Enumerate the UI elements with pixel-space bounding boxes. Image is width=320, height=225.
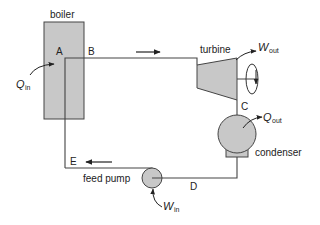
q-in-subscript: in	[25, 84, 31, 91]
condenser-label: condenser	[255, 147, 302, 158]
state-point-c: C	[241, 101, 248, 112]
state-point-e: E	[70, 156, 77, 167]
turbine: turbine W out	[197, 41, 279, 100]
state-point-a: A	[56, 46, 63, 57]
q-out-subscript: out	[272, 117, 282, 124]
w-out-subscript: out	[269, 47, 279, 54]
pipe-condenser-to-pump	[152, 157, 237, 178]
w-in-arrow-icon	[153, 189, 162, 207]
rankine-cycle-diagram: boiler turbine W out Q out condenser	[0, 0, 320, 225]
boiler-label: boiler	[50, 9, 75, 20]
turbine-label: turbine	[200, 44, 231, 55]
state-point-b: B	[88, 46, 95, 57]
pipe-boiler-to-turbine	[65, 58, 197, 168]
q-out-symbol: Q	[263, 111, 272, 123]
w-in-subscript: in	[174, 206, 180, 213]
state-point-d: D	[190, 181, 197, 192]
q-in-symbol: Q	[16, 78, 25, 90]
pipe-pump-to-boiler	[65, 168, 152, 172]
feed-pump-label: feed pump	[83, 173, 131, 184]
w-out-arrow-icon	[236, 51, 256, 60]
condenser: Q out condenser	[218, 111, 302, 158]
feed-pump: feed pump W in	[83, 168, 180, 213]
